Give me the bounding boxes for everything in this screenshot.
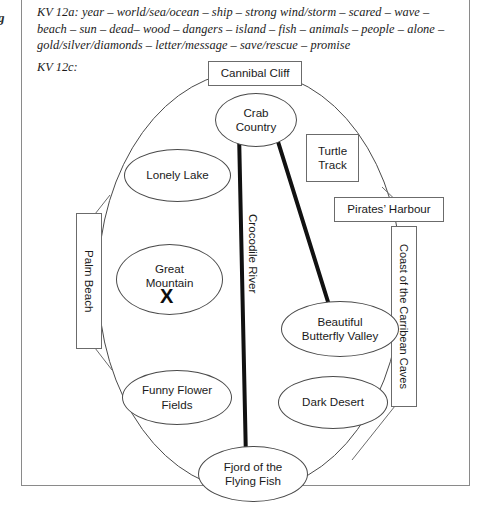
node-lonely-lake[interactable]: Lonely Lake	[124, 149, 231, 202]
node-pirates-harbour[interactable]: Pirates’ Harbour	[334, 197, 444, 222]
connector-palm-beach-bottom	[95, 348, 112, 370]
treasure-island-mindmap: Cannibal Cliff Crab Country Turtle Track…	[22, 60, 470, 510]
node-crab-country[interactable]: Crab Country	[215, 93, 297, 147]
node-fjord-of-the-flying-fish[interactable]: Fjord of the Flying Fish	[198, 446, 308, 502]
node-turtle-track[interactable]: Turtle Track	[306, 134, 359, 182]
node-cannibal-cliff[interactable]: Cannibal Cliff	[208, 61, 302, 86]
node-beautiful-butterfly-valley[interactable]: Beautiful Butterfly Valley	[281, 301, 399, 357]
node-dark-desert[interactable]: Dark Desert	[278, 376, 388, 429]
label-crocodile-river: Crocodile River	[245, 198, 261, 310]
node-coast-of-the-carribean-caves[interactable]: Coast of the Carribean Caves	[391, 226, 417, 407]
node-funny-flower-fields[interactable]: Funny Flower Fields	[122, 370, 232, 425]
vocabulary-list-paragraph: KV 12a: year – world/sea/ocean – ship – …	[37, 4, 449, 54]
node-palm-beach[interactable]: Palm Beach	[76, 213, 102, 349]
margin-mark: g	[0, 9, 10, 27]
treasure-x-marker: X	[160, 286, 173, 306]
connector-palm-beach-top	[95, 195, 110, 214]
